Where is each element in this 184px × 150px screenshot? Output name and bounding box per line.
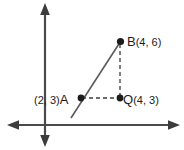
point-label-q: Q(4, 3) [123, 91, 159, 107]
x-axis-arrowhead-right [168, 120, 180, 130]
y-axis-arrowhead-up [40, 3, 50, 15]
y-axis-arrowhead-down [40, 135, 50, 147]
coordinate-geometry-figure: (2, 3)A B(4, 6) Q(4, 3) [0, 0, 184, 150]
x-axis [7, 120, 180, 130]
point-a-coords: (2, 3) [34, 94, 60, 106]
segment-line-ab [71, 42, 121, 119]
point-q-letter: Q [123, 92, 133, 107]
point-label-a: (2, 3)A [34, 91, 68, 107]
point-q-coords: (4, 3) [133, 94, 159, 106]
point-a-letter: A [60, 92, 69, 107]
point-b-coords: (4, 6) [136, 36, 162, 48]
point-dot-a [78, 95, 85, 102]
point-b-letter: B [127, 34, 136, 49]
point-dot-b [117, 38, 124, 45]
x-axis-arrowhead-left [7, 120, 19, 130]
point-label-b: B(4, 6) [127, 33, 161, 49]
diagram-canvas [0, 0, 184, 150]
